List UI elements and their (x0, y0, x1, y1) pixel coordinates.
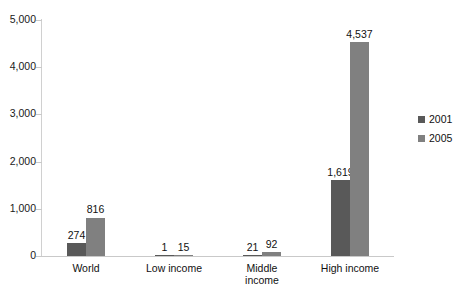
y-axis-tick-label: 5,000 (0, 14, 36, 25)
bar-value-label: 4,537 (341, 29, 378, 40)
bar-2001-high-income (331, 180, 350, 256)
bar-value-label: 92 (253, 239, 290, 250)
y-axis-tick-label: 2,000 (0, 156, 36, 167)
bar-2001-world (67, 243, 86, 256)
bar-value-label: 816 (77, 204, 114, 215)
y-axis-tick (36, 256, 42, 257)
legend-swatch-icon-2001 (418, 116, 425, 123)
y-axis-tick-label: 1,000 (0, 203, 36, 214)
bar-value-label: 15 (165, 242, 202, 253)
legend: 2001 2005 (418, 112, 452, 150)
bar-2005-middle-income (262, 252, 281, 256)
legend-item-2005[interactable]: 2005 (418, 131, 452, 146)
legend-swatch-icon-2005 (418, 135, 425, 142)
bar-2005-low-income (174, 255, 193, 256)
legend-label-2001: 2001 (429, 114, 452, 125)
y-axis-tick-label: 3,000 (0, 108, 36, 119)
bar-2001-low-income (155, 255, 174, 256)
legend-label-2005: 2005 (429, 133, 452, 144)
x-axis-label-middle-income: Middle income (218, 262, 306, 286)
bar-2005-high-income (350, 42, 369, 256)
y-axis-tick-label: 4,000 (0, 61, 36, 72)
bar-2001-middle-income (243, 255, 262, 256)
bar-2005-world (86, 218, 105, 257)
plot-area: 27481611521921,6194,537 (42, 20, 394, 256)
y-axis-tick-label: 0 (0, 250, 36, 261)
bar-chart: 01,0002,0003,0004,0005,000 2748161152192… (0, 0, 471, 302)
x-axis-label-world: World (42, 262, 130, 274)
x-axis-line (41, 256, 394, 257)
x-axis-label-high-income: High income (306, 262, 394, 274)
legend-item-2001[interactable]: 2001 (418, 112, 452, 127)
x-axis-label-low-income: Low income (130, 262, 218, 274)
